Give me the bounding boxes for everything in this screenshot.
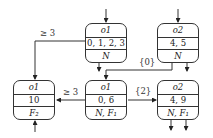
node-o2-bottom-right: o2 4, 9 N, F₁ (157, 80, 199, 120)
node-name: o1 (14, 81, 54, 94)
node-o2-top: o2 4, 5 N (157, 23, 199, 63)
edge-label-n4-n5: {2} (135, 86, 151, 96)
node-values: 10 (14, 94, 54, 107)
node-flags: N, F₁ (86, 106, 126, 119)
node-flags: N, F₁ (158, 106, 198, 119)
edge-label-n1-n3: ≥ 3 (40, 28, 55, 38)
node-name: o2 (158, 81, 198, 94)
node-name: o1 (86, 24, 126, 37)
node-o1-top: o1 0, 1, 2, 3 N (85, 23, 127, 63)
node-o1-bottom-left: o1 10 F₂ (13, 80, 55, 120)
node-flags: N (158, 49, 198, 62)
node-values: 4, 9 (158, 94, 198, 107)
node-values: 4, 5 (158, 37, 198, 50)
node-flags: F₂ (14, 106, 54, 119)
edge-n1-n3 (35, 41, 85, 79)
node-name: o2 (158, 24, 198, 37)
edge-label-n4-n3: ≥ 3 (63, 87, 78, 97)
node-name: o1 (86, 81, 126, 94)
node-values: 0, 6 (86, 94, 126, 107)
node-o1-bottom-mid: o1 0, 6 N, F₁ (85, 80, 127, 120)
edge-label-n2-n4: {0} (139, 57, 155, 67)
node-flags: N (86, 49, 126, 62)
node-values: 0, 1, 2, 3 (86, 37, 126, 50)
